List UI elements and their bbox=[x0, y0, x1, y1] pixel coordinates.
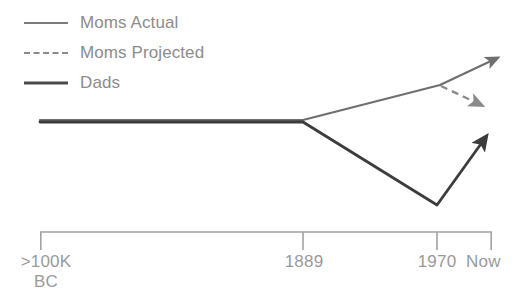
axis-label-now: Now bbox=[466, 252, 514, 272]
axis-label-origin: >100K BC bbox=[8, 252, 84, 292]
x-axis bbox=[40, 232, 492, 250]
line-solid-bold-icon bbox=[24, 77, 68, 89]
axis-label-origin-line2: BC bbox=[8, 272, 84, 292]
legend-item-label: Dads bbox=[80, 73, 120, 93]
legend-item-label: Moms Projected bbox=[80, 43, 204, 63]
series-dads-line bbox=[40, 122, 483, 205]
axis-label-origin-line1: >100K bbox=[8, 252, 84, 272]
axis-label-1889: 1889 bbox=[278, 252, 330, 272]
legend-item-moms-actual[interactable]: Moms Actual bbox=[24, 8, 284, 38]
series-moms-projected-line bbox=[441, 86, 477, 103]
line-dashed-icon bbox=[24, 47, 68, 59]
chart-figure: Moms Actual Moms Projected Dads >100K BC… bbox=[0, 0, 521, 302]
legend-item-label: Moms Actual bbox=[80, 13, 178, 33]
axis-label-1970: 1970 bbox=[410, 252, 464, 272]
chart-legend: Moms Actual Moms Projected Dads bbox=[24, 8, 284, 98]
line-solid-icon bbox=[24, 17, 68, 29]
legend-item-dads[interactable]: Dads bbox=[24, 68, 284, 98]
legend-item-moms-projected[interactable]: Moms Projected bbox=[24, 38, 284, 68]
